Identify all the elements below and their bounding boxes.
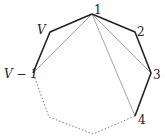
label-vertex-2: 2	[137, 25, 145, 39]
label-vertex-v-minus-1: V − 1	[4, 67, 38, 81]
dotted-edges	[33, 73, 135, 134]
diagonals	[33, 14, 151, 116]
polygon-diagram: 1 2 3 4 V V − 1	[0, 0, 165, 138]
label-vertex-4: 4	[138, 113, 146, 127]
label-vertex-3: 3	[153, 68, 161, 82]
label-vertex-1: 1	[94, 3, 102, 17]
solid-edges	[33, 14, 151, 116]
label-vertex-v: V	[37, 23, 47, 37]
diagonal-1-3	[92, 14, 151, 73]
